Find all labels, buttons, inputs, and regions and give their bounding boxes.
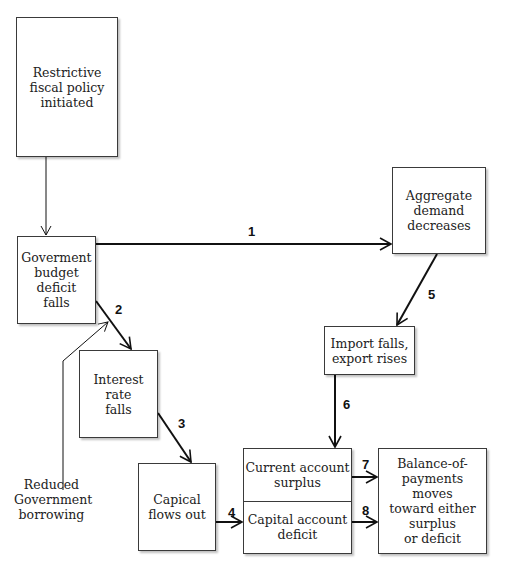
edge-label-6: 6 <box>343 397 350 412</box>
annotation-reduced-borrowing: Reduced Government borrowing <box>14 477 89 522</box>
node-text: Capical flows out <box>148 492 206 522</box>
node-capital-account-deficit: Capital account deficit <box>244 502 351 554</box>
edge-label-1: 1 <box>248 224 255 239</box>
node-interest-rate-falls: Interest rate falls <box>79 350 158 438</box>
node-text: Interest rate falls <box>93 372 143 417</box>
node-current-account-surplus: Current account surplus <box>244 449 351 502</box>
node-budget-deficit-falls: Goverment budget deficit falls <box>17 236 96 324</box>
node-import-export: Import falls, export rises <box>324 326 415 375</box>
flow-diagram: Restrictive fiscal policy initiated Gove… <box>0 0 506 572</box>
node-aggregate-demand-decreases: Aggregate demand decreases <box>392 167 486 254</box>
node-capital-flows-out: Capical flows out <box>138 463 216 551</box>
node-text: Goverment budget deficit falls <box>18 250 95 310</box>
arrow-3 <box>158 413 191 462</box>
node-restrictive-fiscal-policy: Restrictive fiscal policy initiated <box>16 17 118 157</box>
edge-label-5: 5 <box>428 287 435 302</box>
node-text: Restrictive fiscal policy initiated <box>30 65 105 110</box>
arrow-2 <box>96 301 131 349</box>
node-text: Balance-of- payments moves toward either… <box>389 456 476 546</box>
node-text: Import falls, export rises <box>331 336 409 366</box>
node-balance-of-payments: Balance-of- payments moves toward either… <box>378 448 487 554</box>
edge-label-4: 4 <box>228 505 235 520</box>
node-accounts: Current account surplus Capital account … <box>243 448 352 554</box>
edge-label-2: 2 <box>115 302 122 317</box>
node-text: Capital account deficit <box>248 512 348 542</box>
edge-label-3: 3 <box>178 416 185 431</box>
node-text: Aggregate demand decreases <box>406 188 472 233</box>
node-text: Current account surplus <box>245 460 349 490</box>
edge-label-8: 8 <box>362 503 369 518</box>
edge-label-7: 7 <box>362 457 369 472</box>
